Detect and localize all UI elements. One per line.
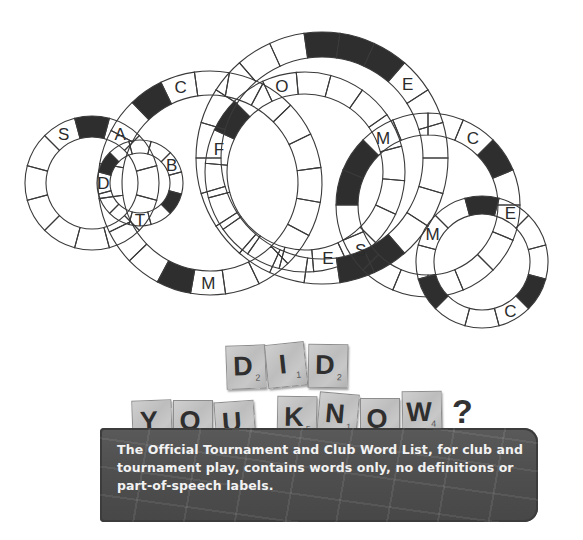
ring-cell[interactable] (27, 195, 59, 230)
fact-text: The Official Tournament and Club Word Li… (117, 441, 527, 495)
ring-cell[interactable] (516, 215, 546, 249)
blocked-cell (214, 101, 249, 139)
ring-cell[interactable] (216, 63, 256, 104)
ring-cell[interactable] (407, 186, 443, 226)
ring-cell[interactable] (225, 73, 262, 106)
ring-cell[interactable] (297, 167, 322, 202)
ring-cell[interactable] (419, 123, 448, 158)
ring-1: AS (25, 116, 159, 250)
question-mark: ? (452, 392, 473, 431)
ring-cell[interactable] (376, 179, 405, 214)
blocked-cell (418, 274, 448, 308)
blocked-cell (161, 191, 181, 214)
letter-tile: I1 (264, 341, 308, 389)
fact-panel: The Official Tournament and Club Word Li… (100, 428, 538, 522)
ring-cell[interactable] (350, 90, 387, 127)
ring-cell[interactable] (27, 136, 59, 171)
cell-letter: T (135, 211, 145, 230)
cell-letter: M (201, 274, 215, 293)
ring-cell[interactable] (528, 245, 548, 279)
letter-tile: D2 (308, 344, 349, 389)
blocked-cell (75, 116, 110, 139)
blocked-cell (304, 32, 340, 58)
ring-cell[interactable] (239, 43, 280, 81)
cell-letter: O (275, 77, 288, 96)
tile-letter: I (265, 348, 300, 382)
ring-cell[interactable] (270, 250, 308, 283)
letter-tile: D2 (225, 344, 267, 389)
cell-letter: C (504, 302, 516, 321)
cell-letter: C (467, 129, 479, 148)
blocked-cell (343, 140, 378, 178)
ring-2: CM (98, 71, 322, 295)
ring-cell[interactable] (336, 205, 363, 240)
ring-7: EMC (416, 196, 548, 328)
ring-cell[interactable] (25, 166, 48, 201)
ring-cell[interactable] (45, 216, 80, 248)
ring-cell[interactable] (222, 262, 259, 294)
cell-letter: E (505, 204, 516, 223)
blocked-cell (132, 82, 171, 119)
ring-cell[interactable] (465, 308, 499, 328)
cell-letter: D (97, 174, 109, 193)
ring-cell[interactable] (325, 75, 362, 108)
cell-letter: S (355, 241, 366, 260)
ring-cell[interactable] (270, 33, 308, 66)
ring-cell[interactable] (289, 134, 321, 171)
cell-letter: M (376, 129, 390, 148)
blocked-cell (465, 196, 499, 216)
ring-cell[interactable] (435, 198, 469, 228)
ring-cell[interactable] (136, 166, 159, 201)
cell-letter: B (166, 156, 177, 175)
cell-letter: M (426, 225, 440, 244)
cell-letter: A (115, 125, 127, 144)
rings-svg: ASCMDBTOFEEMCSEMC (0, 0, 583, 340)
ring-3: DBT (97, 140, 183, 230)
ring-cell[interactable] (205, 163, 230, 198)
ring-cell[interactable] (75, 227, 110, 250)
ring-cell[interactable] (380, 146, 405, 181)
cell-letter: C (175, 78, 187, 97)
ring-cell[interactable] (194, 71, 229, 96)
ring-cell[interactable] (216, 213, 256, 254)
tile-score: 2 (255, 373, 260, 383)
blocked-cell (157, 261, 194, 294)
ring-cell[interactable] (288, 198, 321, 235)
ring-cell[interactable] (477, 232, 512, 270)
cell-letter: E (402, 75, 413, 94)
cell-letter: S (58, 125, 69, 144)
ring-cell[interactable] (273, 105, 310, 144)
circle-crossword-puzzle: ASCMDBTOFEEMCSEMC (0, 0, 583, 340)
tile-score: 2 (337, 372, 342, 382)
ring-5: E (196, 32, 448, 284)
blocked-cell (516, 274, 546, 308)
ring-cell[interactable] (110, 204, 133, 224)
tile-score: 1 (296, 370, 302, 380)
